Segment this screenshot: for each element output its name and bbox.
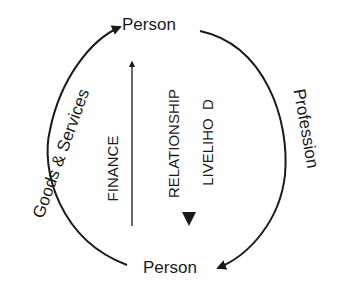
finance-label: FINANCE	[105, 124, 120, 214]
livelihood-label: LIVELIHO D	[200, 88, 215, 198]
relationship-label: RELATIONSHIP	[166, 84, 181, 204]
person-bottom-label: Person	[143, 259, 197, 276]
relationship-down-arrowhead	[182, 212, 196, 226]
person-top-label: Person	[122, 16, 176, 33]
